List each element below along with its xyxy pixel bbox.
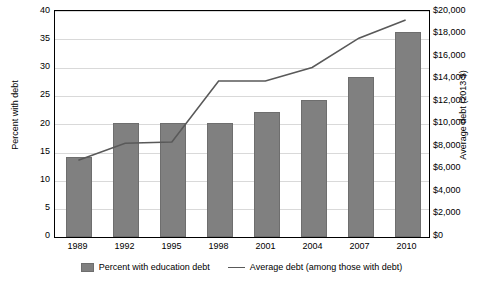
chart-legend: Percent with education debt Average debt… xyxy=(0,262,483,272)
right-axis-tick: $12,000 xyxy=(433,95,477,105)
right-axis-ticks: $20,000 $18,000 $16,000 $14,000 $12,000 … xyxy=(433,10,479,238)
right-axis-tick: $6,000 xyxy=(433,162,477,172)
right-axis-tick: $0 xyxy=(433,230,477,240)
right-axis-title: Average debt (2013 $) xyxy=(458,50,468,180)
bar-swatch-icon xyxy=(81,263,94,272)
right-axis-tick: $20,000 xyxy=(433,5,477,15)
right-axis-tick: $14,000 xyxy=(433,72,477,82)
left-axis-tick: 10 xyxy=(2,174,50,184)
right-axis-tick: $8,000 xyxy=(433,140,477,150)
left-axis-tick: 35 xyxy=(2,33,50,43)
left-axis-ticks: 40 35 30 25 20 15 10 5 0 xyxy=(0,10,50,238)
chart-container: 40 35 30 25 20 15 10 5 0 $20,000 $18,000… xyxy=(0,0,483,292)
legend-label-bar: Percent with education debt xyxy=(99,262,210,272)
left-axis-tick: 0 xyxy=(2,230,50,240)
x-axis-tick: 2007 xyxy=(336,241,383,252)
left-axis-tick: 40 xyxy=(2,5,50,15)
line-swatch-icon xyxy=(228,267,245,268)
average-debt-line xyxy=(78,20,405,160)
x-axis-tick: 1998 xyxy=(195,241,242,252)
legend-item-line: Average debt (among those with debt) xyxy=(228,262,402,272)
x-axis-tick: 1995 xyxy=(148,241,195,252)
x-axis-tick: 2001 xyxy=(242,241,289,252)
legend-item-bar: Percent with education debt xyxy=(81,262,210,272)
x-axis-tick: 1989 xyxy=(54,241,101,252)
x-axis-tick: 2010 xyxy=(383,241,430,252)
line-series-layer xyxy=(55,11,429,237)
x-axis-tick: 2004 xyxy=(289,241,336,252)
legend-label-line: Average debt (among those with debt) xyxy=(250,262,402,272)
right-axis-tick: $10,000 xyxy=(433,117,477,127)
right-axis-tick: $16,000 xyxy=(433,50,477,60)
left-axis-tick: 5 xyxy=(2,202,50,212)
right-axis-tick: $4,000 xyxy=(433,185,477,195)
x-axis-tick: 1992 xyxy=(101,241,148,252)
plot-area xyxy=(54,10,430,238)
left-axis-title: Percent with debt xyxy=(10,55,20,175)
right-axis-tick: $2,000 xyxy=(433,207,477,217)
right-axis-tick: $18,000 xyxy=(433,27,477,37)
x-axis-ticks: 19891992199519982001200420072010 xyxy=(54,241,430,255)
